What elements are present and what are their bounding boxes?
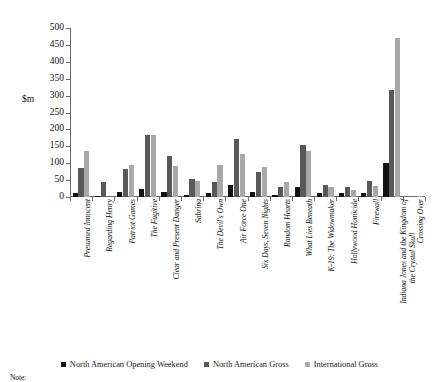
legend-swatch-icon bbox=[204, 362, 209, 367]
bar bbox=[361, 193, 366, 197]
bar bbox=[323, 185, 328, 197]
bar bbox=[167, 156, 172, 197]
x-axis-category-labels: Presumed InnocentRegarding HenryPatriot … bbox=[70, 199, 425, 331]
bar bbox=[278, 187, 283, 197]
bar-group bbox=[206, 165, 223, 197]
bar bbox=[228, 185, 233, 198]
bar bbox=[101, 182, 106, 197]
x-category-label: K-19: The Widowmaker bbox=[328, 199, 337, 272]
bar-group bbox=[117, 165, 134, 197]
x-category-label: The Devil's Own bbox=[217, 199, 226, 250]
x-category-label: Indiana Jones and the Kingdom ofthe Crys… bbox=[400, 199, 417, 317]
bar-group bbox=[161, 156, 178, 197]
bar bbox=[383, 163, 388, 197]
legend-label: North American Opening Weekend bbox=[70, 360, 188, 369]
y-tick bbox=[66, 45, 70, 46]
bar bbox=[217, 165, 222, 197]
bar-group bbox=[272, 182, 289, 197]
y-tick-label: 500 bbox=[50, 23, 64, 33]
bar bbox=[189, 179, 194, 197]
bar bbox=[256, 172, 261, 197]
bar-group bbox=[295, 145, 312, 197]
legend-swatch-icon bbox=[61, 362, 66, 367]
bar bbox=[417, 196, 422, 197]
bar bbox=[250, 192, 255, 197]
y-tick-label: 350 bbox=[50, 74, 64, 84]
bar-group bbox=[95, 182, 112, 197]
bar bbox=[84, 151, 89, 197]
y-tick-label: 100 bbox=[50, 158, 64, 168]
bar bbox=[389, 90, 394, 197]
x-category-label: Clear and Present Danger bbox=[173, 199, 182, 280]
y-tick bbox=[66, 28, 70, 29]
x-category-label: Hollywood Homicide bbox=[351, 199, 360, 264]
x-category-label: The Fugitive bbox=[151, 199, 160, 238]
bar bbox=[206, 193, 211, 197]
y-tick bbox=[66, 113, 70, 114]
bar bbox=[139, 189, 144, 197]
bar bbox=[173, 166, 178, 197]
bar-group bbox=[361, 181, 378, 197]
x-category-label: Six Days, Seven Nights bbox=[262, 199, 271, 269]
legend-item: International Gross bbox=[305, 360, 378, 369]
bar bbox=[184, 195, 189, 197]
legend-label: North American Gross bbox=[213, 360, 289, 369]
bar-group bbox=[228, 139, 245, 197]
legend-item: North American Gross bbox=[204, 360, 289, 369]
bar bbox=[129, 165, 134, 197]
bar bbox=[306, 151, 311, 197]
bar-group bbox=[383, 38, 400, 197]
x-category-label: Regarding Henry bbox=[106, 199, 115, 252]
y-tick bbox=[66, 180, 70, 181]
bar bbox=[295, 187, 300, 197]
bar bbox=[317, 193, 322, 197]
legend-label: International Gross bbox=[314, 360, 378, 369]
bar-group bbox=[250, 167, 267, 197]
x-category-label: What Lies Beneath bbox=[306, 199, 315, 256]
x-category-label: Air Force One bbox=[240, 199, 249, 243]
bar bbox=[262, 167, 267, 197]
bar bbox=[367, 181, 372, 197]
bar bbox=[161, 192, 166, 197]
bar-group bbox=[139, 135, 156, 197]
bar bbox=[351, 190, 356, 197]
bar bbox=[339, 193, 344, 197]
bar bbox=[395, 38, 400, 197]
bar-group bbox=[406, 196, 423, 197]
bar-group bbox=[184, 179, 201, 197]
y-tick-label: 400 bbox=[50, 57, 64, 67]
note-label: Note: bbox=[10, 373, 26, 382]
bar bbox=[284, 182, 289, 197]
bar bbox=[78, 168, 83, 197]
y-tick bbox=[66, 96, 70, 97]
bar bbox=[117, 192, 122, 197]
y-tick-label: 450 bbox=[50, 40, 64, 50]
bar bbox=[145, 135, 150, 197]
legend-swatch-icon bbox=[305, 362, 310, 367]
y-tick-label: 200 bbox=[50, 125, 64, 135]
bar bbox=[123, 169, 128, 197]
y-tick bbox=[66, 129, 70, 130]
y-tick bbox=[66, 62, 70, 63]
bar bbox=[272, 195, 277, 197]
y-tick bbox=[66, 79, 70, 80]
x-category-label: Crossing Over bbox=[417, 199, 426, 243]
y-tick-label: 150 bbox=[50, 142, 64, 152]
y-axis-line bbox=[70, 28, 71, 197]
bar bbox=[212, 182, 217, 197]
bar bbox=[300, 145, 305, 197]
y-tick bbox=[66, 146, 70, 147]
bar-group bbox=[73, 151, 90, 197]
bar bbox=[95, 196, 100, 197]
bar bbox=[373, 186, 378, 197]
y-tick bbox=[66, 163, 70, 164]
bar-group bbox=[317, 185, 334, 197]
plot-area: 050100150200250300350400450500 bbox=[70, 28, 425, 197]
y-tick-label: 50 bbox=[55, 175, 65, 185]
bar bbox=[195, 181, 200, 197]
y-tick-label: 250 bbox=[50, 108, 64, 118]
bar bbox=[328, 187, 333, 197]
y-tick-label: 0 bbox=[59, 192, 64, 202]
bar bbox=[240, 154, 245, 197]
y-tick-label: 300 bbox=[50, 91, 64, 101]
